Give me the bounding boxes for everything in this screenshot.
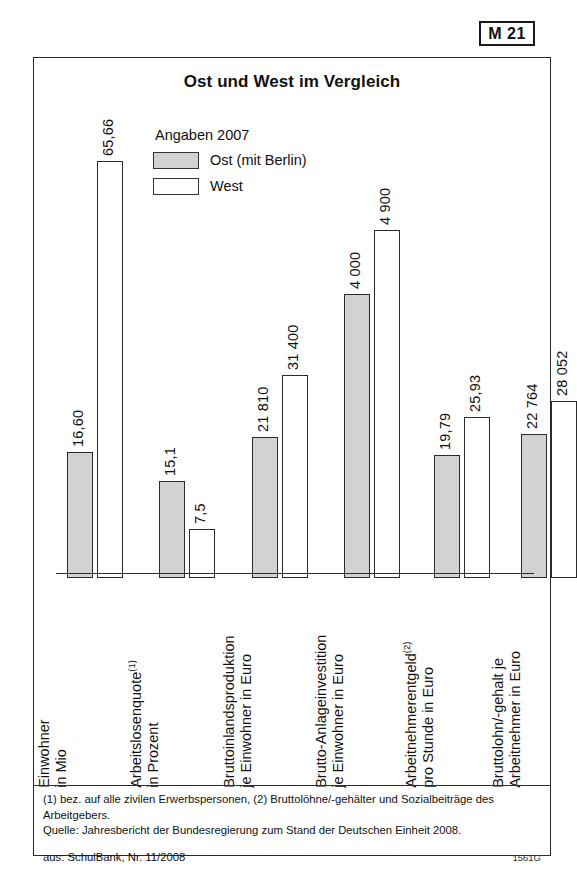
- bar-value-ost-bip: 21 810: [255, 386, 271, 432]
- category-line1-einwohner: Einwohner: [36, 719, 52, 788]
- material-badge-label: M 21: [488, 25, 526, 43]
- category-line1-arbeitslosenquote: Arbeitslosenquote: [128, 672, 144, 788]
- bar-value-west-arbeitslosenquote: 7,5: [192, 503, 208, 524]
- bar-west-einwohner: 65,66: [97, 161, 123, 578]
- bar-west-anlageinvestition: 4 900: [374, 230, 400, 578]
- bar-value-ost-bruttolohn: 22 764: [524, 383, 540, 429]
- bar-value-west-bip: 31 400: [285, 324, 301, 370]
- category-line1-anlageinvestition: Brutto-Anlageinvestition: [313, 635, 329, 788]
- bar-ost-arbeitnehmerentgeld: 19,79: [434, 455, 460, 578]
- x-axis-baseline: [56, 573, 534, 574]
- category-line2-bip: je Einwohner in Euro: [238, 636, 255, 788]
- bar-ost-bruttolohn: 22 764: [521, 434, 547, 578]
- category-line2-einwohner: in Mio: [53, 719, 70, 788]
- bar-value-west-anlageinvestition: 4 900: [377, 188, 393, 225]
- bar-value-west-bruttolohn: 28 052: [554, 350, 570, 396]
- bar-value-ost-einwohner: 16,60: [70, 410, 86, 447]
- category-line1-bruttolohn: Bruttolohn/-gehalt je: [490, 658, 506, 788]
- category-line2-anlageinvestition: je Einwohner in Euro: [330, 635, 347, 788]
- category-line2-bruttolohn: Arbeitnehmer in Euro: [507, 651, 524, 788]
- category-footnote-arbeitslosenquote: (1): [126, 660, 137, 672]
- document-code: 1561G: [512, 850, 541, 866]
- category-line2-arbeitnehmerentgeld: pro Stunde in Euro: [420, 642, 437, 788]
- bar-ost-anlageinvestition: 4 000: [344, 294, 370, 578]
- category-line2-arbeitslosenquote: in Prozent: [145, 660, 162, 788]
- bar-ost-bip: 21 810: [252, 437, 278, 578]
- bar-value-west-arbeitnehmerentgeld: 25,93: [467, 375, 483, 412]
- category-line1-bip: Bruttoinlandsproduktion: [221, 636, 237, 788]
- bar-west-arbeitslosenquote: 7,5: [189, 529, 215, 578]
- bar-west-bruttolohn: 28 052: [551, 401, 577, 578]
- category-line1-arbeitnehmerentgeld: Arbeitnehmerentgeld: [403, 653, 419, 788]
- bar-value-ost-arbeitslosenquote: 15,1: [162, 447, 178, 476]
- bar-west-bip: 31 400: [282, 375, 308, 578]
- source-attribution: aus: SchulBank, Nr. 11/2008: [43, 850, 185, 866]
- bar-ost-arbeitslosenquote: 15,1: [159, 481, 185, 578]
- footer-divider: [34, 785, 550, 786]
- bar-ost-einwohner: 16,60: [67, 452, 93, 578]
- footnote-line-1: (1) bez. auf alle zivilen Erwerbspersone…: [43, 792, 541, 823]
- chart-card: Ost und West im Vergleich Angaben 2007 O…: [33, 57, 551, 856]
- bar-value-ost-arbeitnehmerentgeld: 19,79: [437, 413, 453, 450]
- footnote-line-2: Quelle: Jahresbericht der Bundesregierun…: [43, 823, 541, 839]
- x-axis-category-labels: Einwohner in Mio Arbeitslosenquote(1) in…: [34, 582, 552, 794]
- chart-footer: (1) bez. auf alle zivilen Erwerbspersone…: [43, 792, 541, 865]
- bar-west-arbeitnehmerentgeld: 25,93: [464, 417, 490, 578]
- bar-chart-plot: 16,60 65,66 15,1 7,5 21 810: [34, 58, 552, 578]
- bar-value-ost-anlageinvestition: 4 000: [347, 252, 363, 289]
- bar-value-west-einwohner: 65,66: [100, 119, 116, 156]
- category-footnote-arbeitnehmerentgeld: (2): [401, 642, 412, 654]
- material-badge: M 21: [479, 21, 535, 46]
